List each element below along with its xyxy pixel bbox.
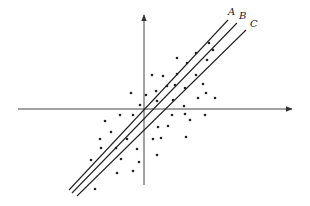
data-point [157,126,160,129]
data-point [189,119,192,122]
data-point [104,120,107,123]
regression-line-b [72,23,237,193]
data-point [126,138,129,141]
line-label-c: C [250,18,258,29]
data-point [205,92,208,95]
data-point [156,154,159,157]
data-point [208,42,211,45]
regression-line-c [77,30,246,196]
data-point [132,114,135,117]
data-point [116,172,119,175]
data-point [186,62,189,65]
data-point [171,114,174,117]
data-point [197,97,200,100]
data-point [185,136,188,139]
data-point [151,74,154,77]
line-label-b: B [238,10,246,21]
data-point [195,52,198,55]
data-point [176,57,179,60]
scatter-diagram: ABC [0,0,310,206]
data-point [136,148,139,151]
data-point [206,59,209,62]
data-point [119,114,122,117]
data-point [145,94,148,97]
regression-line-a [69,20,228,190]
data-point [212,49,215,52]
line-labels: ABC [227,6,258,29]
line-label-a: A [227,6,235,17]
data-point [132,170,135,173]
data-point [160,137,163,140]
data-point [202,83,205,86]
data-point [166,85,169,88]
data-point [99,138,102,141]
data-point [115,147,118,150]
data-point [139,104,142,107]
data-point [152,138,155,141]
data-point [167,125,170,128]
data-point [100,147,103,150]
data-point [90,159,93,162]
data-point [183,105,186,108]
data-point [184,87,187,90]
data-point [110,131,113,134]
data-point [120,158,123,161]
data-point [130,92,133,95]
data-point [174,84,177,87]
regression-lines [69,20,246,196]
data-point [214,97,217,100]
data-point [162,75,165,78]
data-point [156,100,159,103]
data-point [138,161,141,164]
data-point [204,114,207,117]
data-point [184,113,187,116]
data-point [155,90,158,93]
data-point [195,74,198,77]
data-point [94,188,97,191]
data-point [176,73,179,76]
data-point [172,99,175,102]
